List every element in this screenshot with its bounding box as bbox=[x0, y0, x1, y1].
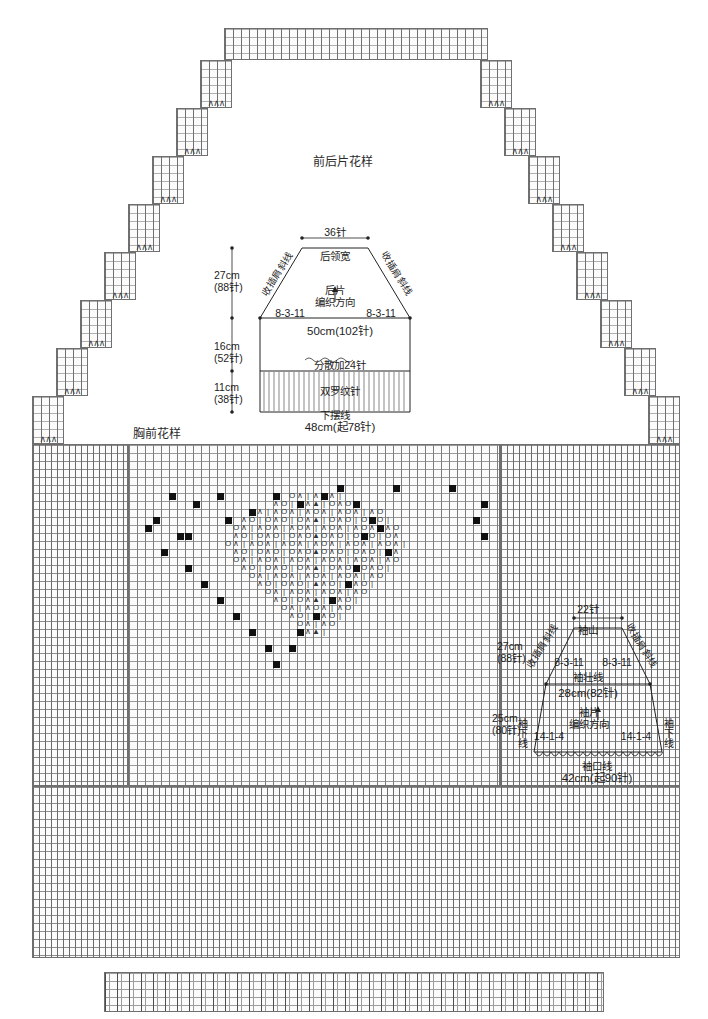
chart-symbol: O bbox=[224, 540, 232, 548]
chart-symbol: | bbox=[304, 540, 312, 548]
chart-symbol: | bbox=[264, 508, 272, 516]
chart-symbol: O bbox=[328, 516, 336, 524]
bobble-symbol bbox=[313, 613, 320, 620]
chart-symbol: O bbox=[296, 620, 304, 628]
bobble-symbol bbox=[353, 501, 360, 508]
chart-symbol: O bbox=[344, 572, 352, 580]
chart-symbol: ∧ bbox=[304, 604, 312, 612]
chart-symbol: | bbox=[352, 596, 360, 604]
chart-symbol: O bbox=[360, 524, 368, 532]
chart-symbol: ∧ bbox=[248, 540, 256, 548]
body-chart-raglan-step-right-3 bbox=[528, 156, 560, 204]
chart-symbol: O bbox=[280, 516, 288, 524]
chart-symbol: O bbox=[288, 540, 296, 548]
body-chart-raglan-step-right-2 bbox=[504, 108, 536, 156]
bottom-ribbing-chart bbox=[104, 972, 604, 1012]
bobble-symbol bbox=[233, 613, 240, 620]
chart-symbol: ∧ bbox=[296, 492, 304, 500]
chart-symbol: | bbox=[304, 492, 312, 500]
chart-symbol: O bbox=[376, 564, 384, 572]
chart-symbol: ▲ bbox=[312, 628, 320, 636]
bobble-symbol bbox=[177, 533, 184, 540]
chart-symbol: | bbox=[280, 548, 288, 556]
chart-symbol: | bbox=[344, 588, 352, 596]
chart-symbol: O bbox=[272, 548, 280, 556]
bobble-symbol bbox=[185, 565, 192, 572]
chart-symbol: ∧ bbox=[392, 540, 400, 548]
chart-symbol: ∧ bbox=[320, 588, 328, 596]
body-chart-raglan-step-right-4 bbox=[552, 204, 584, 252]
back-neck-label: 后领宽 bbox=[307, 250, 363, 262]
chart-symbol: | bbox=[344, 548, 352, 556]
chart-symbol: ∧ bbox=[336, 524, 344, 532]
bobble-symbol bbox=[201, 581, 208, 588]
chart-symbol: ∧ bbox=[312, 540, 320, 548]
chart-symbol: ∧ bbox=[352, 556, 360, 564]
chart-symbol: ∧ bbox=[328, 540, 336, 548]
bobble-symbol bbox=[273, 493, 280, 500]
chart-symbol: | bbox=[336, 612, 344, 620]
chart-symbol: O bbox=[256, 548, 264, 556]
chart-symbol: O bbox=[320, 548, 328, 556]
chart-symbol: ∧ bbox=[336, 564, 344, 572]
chart-symbol: ∧ bbox=[288, 588, 296, 596]
chart-symbol: ∧ bbox=[272, 508, 280, 516]
chart-symbol: ∧ bbox=[320, 572, 328, 580]
chart-symbol: O bbox=[368, 532, 376, 540]
chart-symbol: ∧ bbox=[328, 492, 336, 500]
chart-symbol: ∧ bbox=[320, 620, 328, 628]
chart-symbol: O bbox=[384, 540, 392, 548]
chart-symbol: ▲ bbox=[312, 596, 320, 604]
chart-symbol: | bbox=[320, 516, 328, 524]
chart-symbol: ∧ bbox=[368, 564, 376, 572]
chart-symbol: ∧ bbox=[368, 524, 376, 532]
chart-symbol: ∧ bbox=[288, 604, 296, 612]
chart-symbol: | bbox=[336, 492, 344, 500]
bobble-symbol bbox=[481, 533, 488, 540]
bobble-symbol bbox=[369, 517, 376, 524]
back-increase-note: 分散加24针 bbox=[296, 359, 384, 371]
chart-symbol: ▲ bbox=[312, 580, 320, 588]
bobble-symbol bbox=[249, 629, 256, 636]
chart-symbol: ∧ bbox=[320, 508, 328, 516]
chart-symbol: O bbox=[392, 556, 400, 564]
chart-symbol: ∧ bbox=[320, 580, 328, 588]
chart-symbol: ∧ bbox=[304, 572, 312, 580]
bobble-symbol bbox=[193, 501, 200, 508]
chart-symbol: ∧ bbox=[264, 532, 272, 540]
sleeve-cap-label: 袖山 bbox=[561, 624, 615, 636]
chart-symbol: ∧ bbox=[344, 540, 352, 548]
chart-symbol: ∧ bbox=[328, 532, 336, 540]
chart-symbol: O bbox=[296, 556, 304, 564]
chart-symbol: O bbox=[280, 500, 288, 508]
sleeve-upper-arm-label: 袖壮线 bbox=[561, 671, 615, 683]
chart-symbol: ∧ bbox=[296, 548, 304, 556]
chest-pattern-title: 胸前花样 bbox=[133, 424, 181, 441]
chart-symbol: ∧ bbox=[272, 500, 280, 508]
chart-symbol: O bbox=[264, 564, 272, 572]
chart-symbol: | bbox=[272, 580, 280, 588]
sleeve-dec-left: 8-3-11 bbox=[545, 656, 593, 668]
chest-motif-symbol-layer: O∧|∧O∧|∧O|O∧▲|O∧O|O∧|∧O∧|∧O∧|∧O∧|∧O∧O|O∧… bbox=[128, 444, 500, 786]
back-hem-measure: 48cm(起78针) bbox=[288, 421, 392, 435]
chart-symbol: | bbox=[288, 564, 296, 572]
chart-symbol: O bbox=[344, 516, 352, 524]
chart-symbol: ∧ bbox=[288, 572, 296, 580]
chart-symbol: O bbox=[320, 540, 328, 548]
bobble-symbol bbox=[473, 517, 480, 524]
chart-symbol: O bbox=[264, 516, 272, 524]
chart-symbol: | bbox=[320, 596, 328, 604]
back-hem-label: 下摆线 bbox=[305, 409, 365, 421]
body-chart-raglan-step-right-8 bbox=[648, 396, 680, 444]
bobble-symbol bbox=[217, 493, 224, 500]
chart-symbol: ∧ bbox=[360, 540, 368, 548]
back-dec-right: 8-3-11 bbox=[357, 307, 405, 319]
chart-symbol: ∧ bbox=[256, 524, 264, 532]
chart-symbol: ∧ bbox=[256, 508, 264, 516]
chart-symbol: ∧ bbox=[304, 516, 312, 524]
chart-symbol: | bbox=[256, 516, 264, 524]
body-chart-raglan-step-left-5 bbox=[104, 252, 136, 300]
sleeve-inc-right: 14-1-4 bbox=[614, 730, 658, 742]
body-chart-raglan-step-left-8 bbox=[32, 396, 64, 444]
chart-symbol: ∧ bbox=[280, 540, 288, 548]
